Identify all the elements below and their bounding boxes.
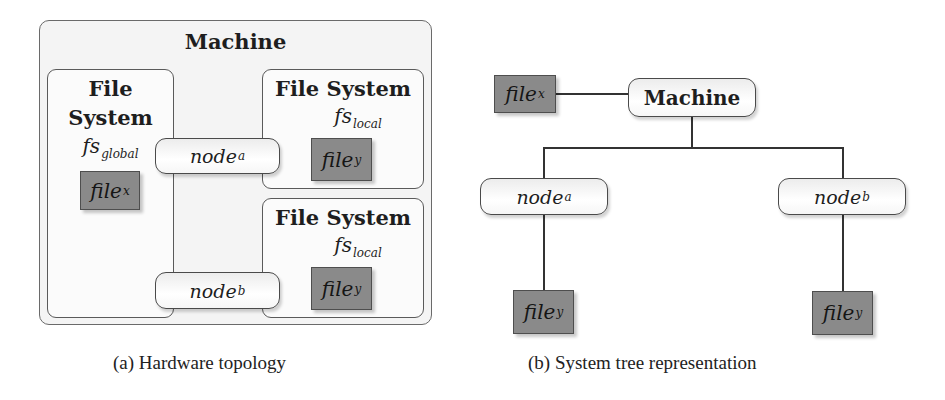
edge-node-a-file [543, 214, 545, 291]
caption-b: (b) System tree representation [528, 352, 756, 374]
file-y-box-bottom: filey [311, 267, 372, 310]
file-y-box-top: filey [311, 138, 372, 181]
edge-machine-stem [691, 117, 693, 149]
edge-node-b-file [842, 214, 844, 292]
tree-file-x-box: filex [494, 75, 556, 113]
tree-node-a-file-y: filey [513, 290, 574, 334]
caption-a: (a) Hardware topology [113, 352, 286, 374]
tree-node-b: nodeb [778, 178, 906, 215]
file-x-box: filex [80, 171, 140, 210]
machine-title: Machine [40, 29, 431, 54]
tree-node-a: nodea [480, 178, 608, 215]
tree-machine-node: Machine [628, 78, 756, 117]
local-fs-top-title: File System [263, 76, 423, 101]
local-fs-bottom-title: File System [263, 205, 423, 230]
edge-to-node-b [842, 147, 844, 179]
edge-horizontal [543, 147, 844, 149]
edge-filex-machine [555, 93, 629, 95]
global-fs-title-line2: System [48, 105, 173, 130]
edge-to-node-a [543, 147, 545, 179]
tree-node-b-file-y: filey [812, 291, 873, 335]
local-fs-top-label: fslocal [293, 104, 423, 131]
node-a-pill: nodea [155, 138, 280, 174]
global-fs-title-line1: File [48, 76, 173, 101]
node-b-pill: nodeb [155, 272, 280, 309]
local-fs-bottom-label: fslocal [293, 233, 423, 260]
